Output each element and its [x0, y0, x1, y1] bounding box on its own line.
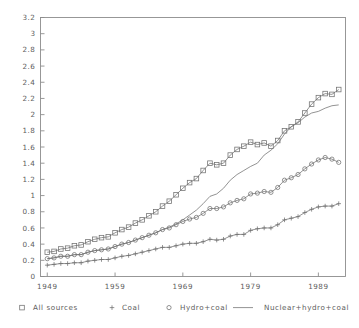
- legend-label: Nuclear+hydro+coal: [264, 303, 349, 312]
- y-tick-label: 0.8: [22, 207, 35, 216]
- x-tick-label: 1979: [240, 282, 261, 291]
- x-tick-label: 1959: [105, 282, 126, 291]
- chart-background: [0, 0, 359, 328]
- y-tick-label: 2.2: [22, 94, 35, 103]
- y-tick-label: 1: [30, 191, 35, 200]
- legend-label: All sources: [33, 303, 78, 312]
- x-tick-label: 1969: [173, 282, 194, 291]
- y-tick-label: 0.6: [22, 224, 35, 233]
- y-tick-label: 3: [30, 29, 35, 38]
- chart-container: 00.20.40.60.811.21.41.61.822.22.42.62.83…: [0, 0, 359, 328]
- y-tick-label: 1.8: [22, 126, 35, 135]
- chart-legend: All sourcesCoalHydro+coalNuclear+hydro+c…: [20, 303, 349, 312]
- y-tick-label: 1.2: [22, 175, 35, 184]
- legend-label: Hydro+coal: [180, 303, 228, 312]
- y-tick-label: 2.8: [22, 45, 35, 54]
- y-tick-label: 2: [30, 110, 35, 119]
- y-tick-label: 0.4: [22, 240, 35, 249]
- y-tick-label: 1.6: [22, 143, 35, 152]
- y-tick-label: 1.4: [22, 159, 35, 168]
- legend-label: Coal: [122, 303, 140, 312]
- y-tick-label: 2.6: [22, 62, 35, 71]
- x-tick-label: 1949: [37, 282, 58, 291]
- line-chart: 00.20.40.60.811.21.41.61.822.22.42.62.83…: [0, 0, 359, 328]
- y-tick-label: 2.4: [22, 78, 35, 87]
- y-tick-label: 3.2: [22, 13, 35, 22]
- y-tick-label: 0: [30, 272, 35, 281]
- y-tick-label: 0.2: [22, 256, 35, 265]
- x-tick-label: 1989: [308, 282, 329, 291]
